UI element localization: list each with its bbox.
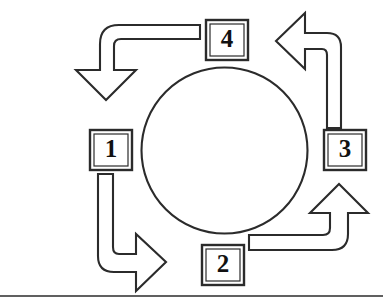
step-box-1-label: 1 [105, 135, 118, 162]
step-box-4: 4 [206, 20, 248, 60]
step-box-3: 3 [324, 130, 366, 170]
cycle-diagram-figure: 4 1 3 2 [0, 0, 383, 303]
cycle-diagram-canvas: 4 1 3 2 [0, 0, 383, 303]
step-box-1: 1 [90, 130, 132, 170]
step-box-2: 2 [202, 245, 244, 285]
step-box-2-label: 2 [217, 250, 230, 277]
step-box-3-label: 3 [339, 135, 352, 162]
center-circle [142, 68, 308, 234]
step-box-4-label: 4 [221, 25, 234, 52]
